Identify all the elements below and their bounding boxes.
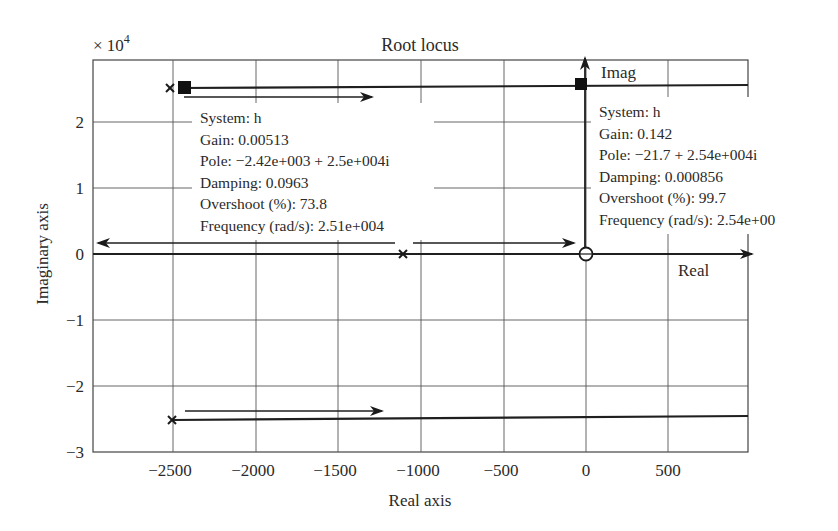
datatip-gain: Gain: 0.00513	[200, 129, 428, 151]
datatip-2[interactable]: System: h Gain: 0.142 Pole: −21.7 + 2.54…	[591, 97, 837, 234]
datatip-system: System: h	[200, 107, 428, 129]
y-axis-label: Imaginary axis	[33, 203, 52, 305]
chart-title: Root locus	[381, 35, 459, 55]
y-tick: −3	[66, 443, 84, 462]
x-tick: −2000	[231, 461, 275, 480]
datatip-1[interactable]: System: h Gain: 0.00513 Pole: −2.42e+003…	[192, 103, 434, 240]
y-tick: 1	[76, 179, 85, 198]
datatip-overshoot: Overshoot (%): 73.8	[200, 193, 428, 215]
x-tick: −2500	[148, 461, 192, 480]
x-tick: 500	[655, 461, 681, 480]
y-tick: 2	[76, 113, 85, 132]
x-axis-label: Real axis	[389, 491, 452, 510]
x-tick: −500	[483, 461, 518, 480]
y-tick: −1	[66, 311, 84, 330]
datatip-marker-1[interactable]	[178, 81, 191, 94]
datatip-marker-2[interactable]	[575, 78, 587, 90]
datatip-damping: Damping: 0.000856	[599, 166, 831, 188]
datatip-frequency: Frequency (rad/s): 2.54e+00	[599, 209, 831, 231]
y-exponent-label: × 104	[93, 32, 130, 55]
datatip-pole: Pole: −2.42e+003 + 2.5e+004i	[200, 150, 428, 172]
y-tick-labels: 2 1 0 −1 −2 −3	[66, 113, 84, 462]
real-axis-arrow-label: Real	[678, 261, 709, 280]
x-tick: 0	[582, 461, 591, 480]
y-tick: −2	[66, 377, 84, 396]
y-tick: 0	[76, 245, 85, 264]
x-tick-labels: −2500 −2000 −1500 −1000 −500 0 500	[148, 461, 681, 480]
datatip-damping: Damping: 0.0963	[200, 172, 428, 194]
imag-axis-arrow-label: Imag	[601, 63, 636, 82]
datatip-overshoot: Overshoot (%): 99.7	[599, 187, 831, 209]
x-tick: −1000	[396, 461, 440, 480]
datatip-pole: Pole: −21.7 + 2.54e+004i	[599, 144, 831, 166]
root-locus-chart: 2 1 0 −1 −2 −3 −2500 −2000 −1500 −1000 −…	[0, 0, 838, 531]
datatip-gain: Gain: 0.142	[599, 123, 831, 145]
datatip-frequency: Frequency (rad/s): 2.51e+004	[200, 215, 428, 237]
x-tick: −1500	[313, 461, 357, 480]
datatip-system: System: h	[599, 101, 831, 123]
